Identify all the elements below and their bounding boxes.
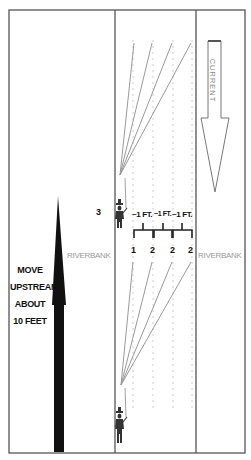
upper-cast-fan: [120, 43, 191, 175]
spacing-brackets: [134, 223, 192, 238]
instruction-line: UPSTREAM: [10, 279, 50, 296]
instruction-line: 10 FEET: [10, 313, 50, 330]
instruction-line: MOVE: [10, 262, 50, 279]
left-bank-label: RIVERBANK: [67, 251, 111, 260]
right-bank-label: RIVERBANK: [198, 251, 242, 260]
cast-number-2: 2: [150, 245, 155, 255]
cast-number-4: 2: [188, 245, 193, 255]
instruction-line: ABOUT: [10, 296, 50, 313]
upper-angler-icon: [115, 178, 127, 228]
current-label: CURRENT: [208, 59, 217, 103]
lower-angler-icon: [115, 388, 127, 443]
spacing-label-2: ~1 FT.: [154, 210, 171, 217]
spacing-label-3: ~1 FT.: [172, 210, 192, 219]
cast-number-1: 1: [131, 245, 136, 255]
spacing-label-1: ~1 FT.: [132, 210, 152, 219]
step-number: 3: [96, 207, 101, 217]
lower-cast-fan: [121, 262, 191, 385]
cast-number-3: 2: [170, 245, 175, 255]
upstream-arrow-icon: [52, 196, 66, 452]
instruction-text: MOVE UPSTREAM ABOUT 10 FEET: [10, 262, 50, 330]
